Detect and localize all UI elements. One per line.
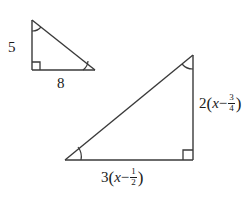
- large-triangle-vertical-leg-label: 2(x−34): [199, 94, 241, 115]
- right-label-fraction-numerator: 3: [228, 93, 235, 102]
- small-triangle-right-angle-marker: [32, 62, 40, 70]
- bottom-label-operator: −: [121, 169, 129, 185]
- large-triangle-hypotenuse: [65, 55, 193, 160]
- small-triangle-hypotenuse: [32, 20, 95, 70]
- bottom-label-fraction: 12: [130, 167, 137, 188]
- right-label-operator: −: [219, 95, 227, 111]
- large-triangle-top-angle-arc: [182, 64, 193, 69]
- right-label-variable: x: [212, 95, 219, 111]
- right-label-fraction-denominator: 4: [228, 104, 235, 113]
- right-label-fraction: 34: [228, 93, 235, 114]
- bottom-label-fraction-numerator: 1: [130, 167, 137, 176]
- small-right-triangle: [32, 20, 95, 70]
- large-right-triangle: [65, 55, 193, 160]
- small-triangle-top-angle-arc: [32, 27, 41, 31]
- small-triangle-horizontal-leg-label: 8: [57, 76, 65, 91]
- bottom-label-fraction-denominator: 2: [130, 178, 137, 187]
- large-triangle-right-angle-marker: [183, 150, 193, 160]
- small-triangle-vertical-leg-label: 5: [8, 40, 16, 55]
- large-triangle-horizontal-leg-label: 3(x−12): [101, 168, 143, 189]
- geometry-figure-canvas: 5 8 2(x−34) 3(x−12): [0, 0, 247, 197]
- right-label-coefficient: 2: [199, 95, 207, 111]
- bottom-label-close-paren: ): [138, 168, 144, 187]
- right-label-close-paren: ): [236, 94, 242, 113]
- bottom-label-coefficient: 3: [101, 169, 109, 185]
- bottom-label-variable: x: [114, 169, 121, 185]
